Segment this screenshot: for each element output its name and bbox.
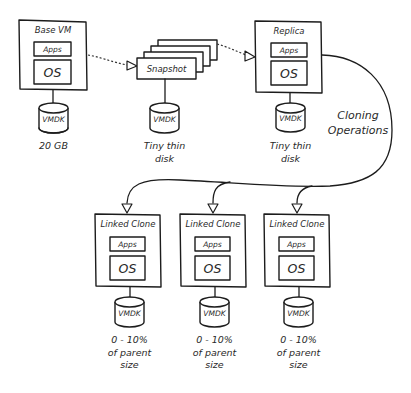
linked-clone-apps-label: Apps xyxy=(117,240,137,249)
linked-clone-os-label: OS xyxy=(204,261,222,276)
replica-apps-label: Apps xyxy=(279,46,299,55)
replica-title: Replica xyxy=(273,26,304,36)
arrow-to-clone-2 xyxy=(208,204,218,213)
linked-clone-caption-line1: 0 - 10% xyxy=(196,334,233,345)
linked-clone-apps-label: Apps xyxy=(286,240,306,249)
snapshot-disk-label: VMDK xyxy=(153,115,176,124)
base-vm-os-label: OS xyxy=(44,65,62,80)
base-vm-title: Base VM xyxy=(35,25,72,35)
cloning-label-line2: Operations xyxy=(328,124,389,137)
linked-clone-caption-line2: of parent xyxy=(108,347,153,358)
snapshot-disk-caption-line2: disk xyxy=(155,153,175,164)
linked-clone-disk-label: VMDK xyxy=(118,309,141,318)
snapshot-to-replica-arrow xyxy=(217,44,255,61)
linked-clone-caption-line3: size xyxy=(120,359,139,370)
linked-clone-caption-line1: 0 - 10% xyxy=(111,334,148,345)
replica-os-label: OS xyxy=(280,66,298,81)
base-vm-disk-label: VMDK xyxy=(42,115,65,124)
linked-clone-caption-line3: size xyxy=(289,359,308,370)
vm-cloning-diagram: Base VM Apps OS VMDK 20 GB Snapshot VMDK… xyxy=(0,0,411,393)
snapshot-disk-caption-line1: Tiny thin xyxy=(144,140,186,151)
linked-clone-apps-label: Apps xyxy=(202,240,222,249)
replica-disk-caption-line1: Tiny thin xyxy=(270,140,312,151)
linked-clone-1-node: Linked Clone Apps OS VMDK 0 - 10% of par… xyxy=(95,214,161,370)
linked-clone-caption-line2: of parent xyxy=(277,347,322,358)
base-to-snapshot-arrow xyxy=(88,55,137,70)
linked-clone-disk-label: VMDK xyxy=(287,309,310,318)
linked-clone-caption-line2: of parent xyxy=(193,347,238,358)
replica-node: Replica Apps OS VMDK Tiny thin disk xyxy=(255,21,322,164)
cloning-label-line1: Cloning xyxy=(337,109,378,122)
linked-clone-title: Linked Clone xyxy=(101,219,156,229)
linked-clone-3-node: Linked Clone Apps OS VMDK 0 - 10% of par… xyxy=(264,214,330,370)
linked-clone-disk-label: VMDK xyxy=(203,309,226,318)
linked-clone-os-label: OS xyxy=(119,261,137,276)
linked-clone-caption-line1: 0 - 10% xyxy=(280,334,317,345)
linked-clone-title: Linked Clone xyxy=(270,219,325,229)
arrow-to-clone-1 xyxy=(122,204,132,213)
linked-clone-os-label: OS xyxy=(288,261,306,276)
replica-disk-caption-line2: disk xyxy=(281,153,301,164)
base-vm-disk-caption: 20 GB xyxy=(39,140,68,151)
linked-clone-title: Linked Clone xyxy=(186,219,241,229)
snapshot-label: Snapshot xyxy=(147,64,187,74)
replica-disk-label: VMDK xyxy=(279,114,302,123)
snapshot-node: Snapshot VMDK Tiny thin disk xyxy=(137,40,217,164)
base-vm-node: Base VM Apps OS VMDK 20 GB xyxy=(19,20,87,151)
linked-clone-caption-line3: size xyxy=(205,359,224,370)
arrow-to-clone-3 xyxy=(292,204,302,213)
base-vm-apps-label: Apps xyxy=(42,45,62,54)
linked-clone-2-node: Linked Clone Apps OS VMDK 0 - 10% of par… xyxy=(180,214,246,370)
